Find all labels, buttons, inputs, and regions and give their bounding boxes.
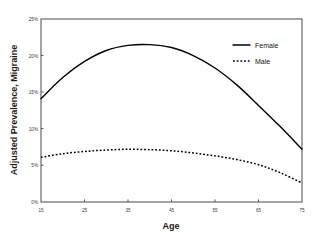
y-axis-title-group: Adjusted Prevalence, Migraine: [9, 45, 19, 176]
x-tick-label-15: 15: [38, 208, 44, 213]
legend-label-female: Female: [255, 42, 278, 49]
y-tick-label-15: 15%: [29, 90, 38, 95]
y-tick-label-5: 5%: [31, 163, 38, 168]
legend-label-male: Male: [255, 58, 270, 65]
migraine-prevalence-line-chart: Adjusted Prevalence, Migraine Age 25% 20…: [0, 0, 318, 242]
y-axis-title: Adjusted Prevalence, Migraine: [9, 45, 19, 176]
chart-background: [0, 0, 318, 242]
y-tick-label-25: 25%: [29, 17, 38, 22]
x-tick-label-65: 65: [256, 208, 262, 213]
x-tick-label-45: 45: [169, 208, 175, 213]
y-tick-label-20: 20%: [29, 54, 38, 59]
y-tick-label-10: 10%: [29, 127, 38, 132]
x-tick-label-35: 35: [125, 208, 131, 213]
x-tick-label-75: 75: [299, 208, 305, 213]
x-tick-label-55: 55: [212, 208, 218, 213]
x-tick-label-25: 25: [82, 208, 88, 213]
x-axis-title-group: Age: [162, 221, 179, 231]
x-axis-title: Age: [162, 221, 179, 231]
chart-figure: Adjusted Prevalence, Migraine Age 25% 20…: [0, 0, 318, 242]
y-tick-label-0: 0%: [31, 200, 38, 205]
